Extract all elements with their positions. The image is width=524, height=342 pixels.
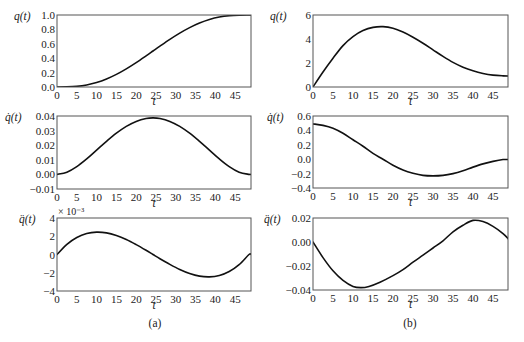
x-tick-label: 5 (330, 89, 336, 101)
x-tick-label: 5 (330, 190, 336, 202)
subplot-b3: 051015202530354045t−0.04−0.020.000.02q̈(… (264, 212, 509, 310)
figure-canvas: 051015202530354045t0.00.20.40.60.81.0q(t… (0, 0, 524, 342)
y-tick-label: 0.2 (297, 139, 311, 151)
x-tick-label: 0 (310, 190, 316, 202)
x-tick-label: 40 (468, 89, 480, 101)
x-tick-label: 35 (190, 191, 202, 203)
x-tick-label: 5 (74, 89, 80, 101)
y-axis-label: q̈(t) (19, 213, 36, 226)
y-tick-label: 0.4 (41, 52, 55, 64)
axis-multiplier: × 10⁻³ (58, 206, 84, 217)
x-tick-label: 30 (428, 89, 440, 101)
y-tick-label: 0.6 (41, 38, 55, 50)
x-tick-label: 0 (54, 293, 60, 305)
x-tick-label: 30 (428, 292, 440, 304)
y-tick-label: 0.00 (292, 236, 312, 248)
x-tick-label: 35 (448, 89, 460, 101)
y-tick-label: 1.0 (41, 9, 55, 21)
y-tick-label: −2 (43, 267, 55, 279)
y-axis-label: q̇(t) (267, 111, 284, 124)
x-tick-label: 40 (468, 292, 480, 304)
caption-a: (a) (149, 317, 162, 330)
y-tick-label: 0.02 (292, 212, 311, 224)
x-tick-label: 40 (210, 191, 222, 203)
x-tick-label: 40 (468, 190, 480, 202)
x-tick-label: 35 (448, 190, 460, 202)
x-tick-label: 40 (210, 293, 222, 305)
x-tick-label: 45 (230, 191, 242, 203)
x-tick-label: 5 (74, 293, 80, 305)
x-tick-label: 10 (91, 293, 103, 305)
x-tick-label: 10 (91, 89, 103, 101)
x-tick-label: 0 (54, 89, 60, 101)
x-tick-label: 35 (448, 292, 460, 304)
data-curve (57, 118, 251, 175)
data-curve (313, 220, 509, 287)
y-tick-label: 0.04 (36, 110, 56, 122)
data-curve (57, 15, 251, 87)
y-tick-label: −0.4 (291, 182, 311, 194)
x-tick-label: 30 (170, 191, 182, 203)
caption-b: (b) (403, 317, 417, 330)
y-axis-label: q̇(t) (5, 111, 22, 124)
x-tick-label: 35 (190, 293, 202, 305)
x-tick-label: 20 (131, 293, 143, 305)
y-tick-label: 0 (50, 249, 56, 261)
plot-frame (313, 116, 508, 188)
y-tick-label: −0.2 (291, 168, 311, 180)
x-tick-label: 0 (310, 89, 316, 101)
y-tick-label: 4 (50, 212, 56, 224)
x-tick-label: 5 (330, 292, 336, 304)
subplot-b2: 051015202530354045t−0.4−0.20.00.20.40.6q… (267, 110, 509, 208)
y-tick-label: 0.2 (41, 67, 55, 79)
x-tick-label: 10 (91, 191, 103, 203)
data-curve (57, 232, 251, 277)
y-tick-label: 2 (50, 230, 56, 242)
x-tick-label: 0 (310, 292, 316, 304)
y-tick-label: 0.0 (41, 81, 55, 93)
y-tick-label: −0.02 (286, 260, 311, 272)
y-tick-label: 0.0 (297, 153, 311, 165)
y-tick-label: 4 (306, 33, 312, 45)
y-tick-label: 6 (306, 9, 312, 21)
y-tick-label: 2 (306, 57, 312, 69)
y-tick-label: 0.8 (41, 23, 55, 35)
subplot-a1: 051015202530354045t0.00.20.40.60.81.0q(t… (14, 9, 251, 107)
x-tick-label: 20 (131, 191, 143, 203)
y-tick-label: −0.04 (286, 284, 312, 296)
charts-group: 051015202530354045t0.00.20.40.60.81.0q(t… (5, 9, 509, 311)
x-tick-label: 0 (54, 191, 60, 203)
x-tick-label: 10 (348, 89, 360, 101)
x-tick-label: 40 (210, 89, 222, 101)
x-tick-label: 15 (111, 191, 123, 203)
x-tick-label: 5 (74, 191, 80, 203)
x-tick-label: 15 (111, 89, 123, 101)
x-tick-label: 10 (348, 292, 360, 304)
y-tick-label: −4 (43, 285, 55, 297)
x-tick-label: 30 (170, 293, 182, 305)
x-tick-label: 20 (388, 190, 400, 202)
subplot-a3: 051015202530354045t−4−2024q̈(t)× 10⁻³ (19, 206, 251, 311)
y-tick-label: 0.6 (297, 110, 311, 122)
x-tick-label: 15 (368, 292, 380, 304)
y-tick-label: 0.01 (36, 154, 55, 166)
y-tick-label: 0.03 (36, 125, 56, 137)
x-tick-label: 30 (428, 190, 440, 202)
y-axis-label: q(t) (14, 10, 31, 23)
subplot-a2: 051015202530354045t−0.010.000.010.020.03… (5, 110, 251, 209)
x-tick-label: 45 (488, 190, 500, 202)
x-tick-label: 45 (488, 292, 500, 304)
y-tick-label: 0 (306, 81, 312, 93)
data-curve (313, 124, 509, 176)
y-tick-label: 0.00 (36, 168, 56, 180)
y-axis-label: q̈(t) (264, 213, 281, 226)
x-tick-label: 15 (368, 89, 380, 101)
y-tick-label: −0.01 (30, 183, 55, 195)
x-tick-label: 45 (230, 89, 242, 101)
y-tick-label: 0.4 (297, 124, 311, 136)
x-tick-label: 20 (388, 89, 400, 101)
x-tick-label: 15 (368, 190, 380, 202)
x-tick-label: 20 (388, 292, 400, 304)
subplot-b1: 051015202530354045t0246q(t) (270, 9, 509, 107)
x-tick-label: 45 (230, 293, 242, 305)
